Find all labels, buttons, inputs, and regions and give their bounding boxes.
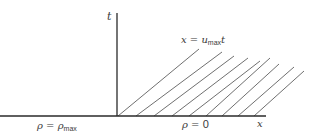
characteristic-line	[254, 71, 304, 116]
char-eq: =	[190, 34, 198, 45]
rho-symbol: ρ	[182, 119, 188, 130]
characteristic-line	[118, 49, 199, 116]
t-axis-label: t	[107, 11, 111, 22]
rho-value-sub: max	[64, 125, 77, 132]
rho-eq: =	[46, 120, 54, 131]
characteristic-line	[238, 67, 294, 116]
characteristic-line	[154, 56, 234, 116]
characteristic-line	[172, 58, 248, 116]
rho-value: 0	[203, 118, 209, 130]
characteristic-equation-label: x = umaxt	[181, 35, 225, 46]
char-sub: max	[208, 39, 221, 46]
char-lhs: x	[181, 34, 187, 45]
characteristic-lines	[118, 49, 304, 116]
characteristic-line	[189, 61, 260, 116]
rho-symbol: ρ	[37, 120, 43, 131]
region-right-label: ρ = 0	[182, 119, 209, 130]
x-axis-label: x	[257, 119, 263, 129]
char-rhs-var: t	[221, 34, 225, 45]
characteristic-line	[206, 58, 270, 116]
region-left-label: ρ = ρmax	[37, 121, 77, 132]
characteristic-line	[136, 52, 222, 116]
rho-eq: =	[191, 119, 199, 130]
